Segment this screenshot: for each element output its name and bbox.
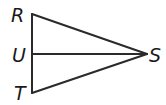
segment-rs: [32, 14, 147, 54]
triangle-diagram: R U T S: [0, 0, 166, 105]
label-s: S: [149, 44, 161, 66]
segment-ts: [32, 54, 147, 93]
label-t: T: [14, 82, 27, 104]
label-r: R: [11, 4, 24, 26]
label-u: U: [12, 44, 26, 66]
